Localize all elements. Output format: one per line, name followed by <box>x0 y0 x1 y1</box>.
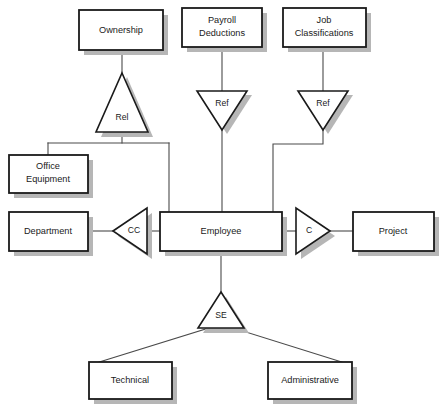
entity-job-classifications-label-line2: Classifications <box>295 28 354 38</box>
relationship-rel-triangle[interactable] <box>96 73 148 132</box>
relationship-c-label: C <box>306 225 312 235</box>
relationship-cc-label: CC <box>128 225 140 235</box>
entity-project-label: Project <box>379 226 408 236</box>
relationship-se-label: SE <box>215 310 227 320</box>
entity-department-label: Department <box>24 226 72 236</box>
connector-se-to-administrative <box>233 328 342 362</box>
connector-se-to-technical <box>99 328 209 362</box>
entity-employee-label: Employee <box>201 226 242 236</box>
entity-technical[interactable]: Technical <box>89 362 172 399</box>
entity-payroll-deductions[interactable]: Payroll Deductions <box>182 8 262 47</box>
entity-administrative[interactable]: Administrative <box>268 362 352 399</box>
entity-job-classifications[interactable]: Job Classifications <box>283 8 366 47</box>
entity-shadow-layer <box>14 13 439 404</box>
entity-office-equipment-label-line1: Office <box>36 161 60 171</box>
entity-payroll-deductions-label-line2: Deductions <box>199 28 245 38</box>
entity-technical-label: Technical <box>111 375 149 385</box>
relationship-rel-label: Rel <box>116 112 129 122</box>
relationship-rel[interactable]: Rel <box>96 73 148 132</box>
er-diagram-svg: Rel Ref Ref CC C SE Owners <box>0 0 445 410</box>
entity-employee[interactable]: Employee <box>160 212 282 251</box>
entity-project[interactable]: Project <box>353 212 434 251</box>
er-diagram-canvas: Rel Ref Ref CC C SE Owners <box>0 0 445 410</box>
entity-ownership-label: Ownership <box>99 25 143 35</box>
entity-job-classifications-label-line1: Job <box>317 15 332 25</box>
entity-ownership[interactable]: Ownership <box>79 10 163 50</box>
connector-ref-job-to-employee <box>273 130 323 212</box>
relationship-cc[interactable]: CC <box>113 208 147 254</box>
relationship-se[interactable]: SE <box>198 292 244 328</box>
entity-office-equipment-label-line2: Equipment <box>26 174 70 184</box>
relationship-ref-payroll-label: Ref <box>215 98 229 108</box>
entity-administrative-label: Administrative <box>281 375 339 385</box>
entity-department[interactable]: Department <box>9 212 88 251</box>
entity-office-equipment[interactable]: Office Equipment <box>9 155 88 193</box>
relationship-ref-job-label: Ref <box>316 98 330 108</box>
entity-payroll-deductions-label-line1: Payroll <box>208 15 236 25</box>
